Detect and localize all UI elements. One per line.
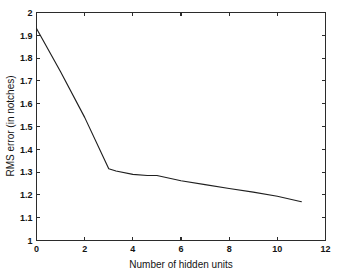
- y-tick-label: 1.8: [20, 53, 33, 63]
- y-tick-label: 1.3: [20, 167, 33, 177]
- plot-axes: [37, 13, 326, 241]
- x-tick-label: 4: [130, 244, 135, 254]
- y-tick-label: 1.7: [20, 76, 33, 86]
- y-tick-label: 1.2: [20, 190, 33, 200]
- tick-labels: 02468101211.11.21.31.41.51.61.71.81.92: [20, 8, 331, 254]
- x-tick-label: 0: [34, 244, 39, 254]
- y-axis-label: RMS error (in notches): [5, 75, 16, 176]
- y-tick-label: 1.9: [20, 31, 33, 41]
- x-tick-label: 12: [320, 244, 330, 254]
- y-tick-label: 1.5: [20, 122, 33, 132]
- x-tick-label: 2: [82, 244, 87, 254]
- y-tick-label: 2: [27, 8, 32, 18]
- axes-frame: [37, 13, 326, 241]
- y-tick-label: 1.1: [20, 213, 33, 223]
- y-tick-label: 1.4: [20, 145, 33, 155]
- data-series: [37, 28, 302, 201]
- x-axis-label: Number of hidden units: [129, 259, 232, 270]
- y-tick-label: 1.6: [20, 99, 33, 109]
- tick-marks: [37, 13, 326, 241]
- x-tick-label: 10: [272, 244, 282, 254]
- series-line-rms-error: [37, 28, 302, 201]
- x-tick-label: 8: [227, 244, 232, 254]
- chart-figure: 02468101211.11.21.31.41.51.61.71.81.92 N…: [0, 0, 338, 277]
- y-tick-label: 1: [27, 236, 32, 246]
- rms-error-line-chart: 02468101211.11.21.31.41.51.61.71.81.92 N…: [0, 0, 338, 277]
- x-tick-label: 6: [178, 244, 183, 254]
